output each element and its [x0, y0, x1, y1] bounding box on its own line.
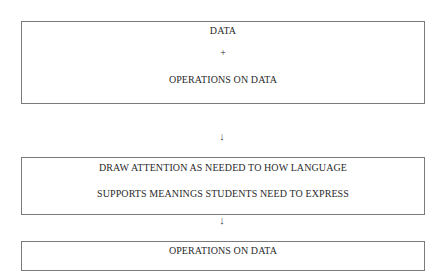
box1-label-data: DATA — [22, 25, 424, 36]
box-operations-on-data: OPERATIONS ON DATA — [21, 241, 425, 271]
down-arrow-icon: ↓ — [0, 131, 444, 142]
box-data-plus-operations: DATA + OPERATIONS ON DATA — [21, 21, 425, 104]
box1-label-operations: OPERATIONS ON DATA — [22, 74, 424, 85]
box2-line1: DRAW ATTENTION AS NEEDED TO HOW LANGUAGE — [22, 162, 424, 173]
box-draw-attention: DRAW ATTENTION AS NEEDED TO HOW LANGUAGE… — [21, 157, 425, 215]
box2-line2: SUPPORTS MEANINGS STUDENTS NEED TO EXPRE… — [22, 188, 424, 199]
box1-plus-sign: + — [22, 47, 424, 58]
box3-label: OPERATIONS ON DATA — [22, 245, 424, 256]
down-arrow-icon: ↓ — [0, 215, 444, 226]
